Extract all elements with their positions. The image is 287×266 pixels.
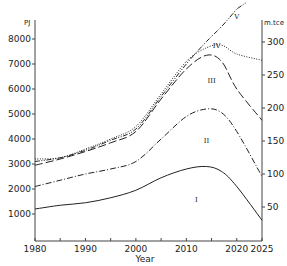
y-right-tick-label: 150	[267, 136, 284, 146]
y-right-tick-label: 300	[267, 37, 284, 47]
y-tick-label: 2000	[8, 184, 31, 194]
y-tick-label: 6000	[8, 84, 31, 94]
y-right-tick-label: 250	[267, 70, 284, 80]
y-tick-label: 5000	[8, 109, 31, 119]
series-IV-line	[35, 45, 262, 159]
series-label-III: III	[207, 77, 216, 85]
series-label-I: I	[195, 196, 198, 204]
series-label-V: V	[233, 13, 240, 21]
right-y-ticks: 50100150200250300	[262, 37, 284, 212]
x-tick-label: 2010	[175, 244, 198, 254]
x-tick-label: 1980	[24, 244, 47, 254]
x-tick-label: 2025	[251, 244, 274, 254]
y-tick-label: 8000	[8, 34, 31, 44]
energy-projection-chart: PJ m.tce 1000200030004000500060007000800…	[0, 0, 287, 266]
right-axis-unit: m.tce	[264, 19, 284, 27]
x-tick-label: 2020	[225, 244, 248, 254]
x-tick-label: 2000	[124, 244, 147, 254]
y-right-tick-label: 200	[267, 103, 284, 113]
left-y-ticks: 10002000300040005000600070008000	[8, 34, 35, 219]
series-curves	[35, 2, 262, 220]
y-tick-label: 7000	[8, 59, 31, 69]
series-II-line	[35, 109, 262, 187]
y-tick-label: 1000	[8, 209, 31, 219]
series-labels: IIIIIIIVV	[195, 13, 240, 204]
x-tick-label: 1990	[74, 244, 97, 254]
axes	[35, 20, 262, 241]
series-I-line	[35, 166, 262, 220]
x-axis-title: Year	[134, 254, 154, 264]
y-tick-label: 4000	[8, 134, 31, 144]
x-ticks: 198019902000201020202025	[24, 238, 274, 254]
y-right-tick-label: 100	[267, 169, 284, 179]
left-axis-unit: PJ	[24, 19, 30, 27]
series-label-II: II	[204, 137, 210, 145]
y-tick-label: 3000	[8, 159, 31, 169]
y-right-tick-label: 50	[267, 202, 279, 212]
series-III-line	[35, 55, 262, 165]
series-label-IV: IV	[213, 42, 222, 50]
